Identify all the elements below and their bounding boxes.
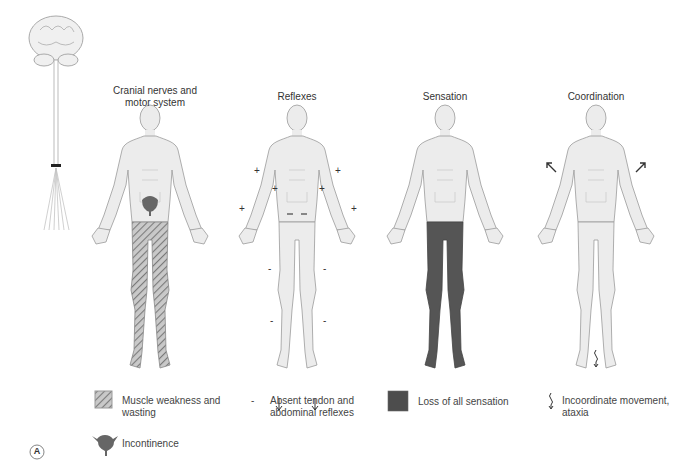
figure-coordination	[538, 105, 654, 368]
dark-square-icon	[388, 391, 408, 411]
plus-mark: +	[272, 183, 278, 194]
legend-muscle: Muscle weakness and wasting	[122, 395, 220, 419]
title-line-1: Cranial nerves and	[100, 85, 210, 97]
legend-reflex: Absent tendon and abdominal reflexes	[270, 395, 354, 419]
plus-mark: +	[351, 203, 357, 214]
plus-mark: +	[319, 183, 325, 194]
figure-motor-system	[92, 105, 208, 368]
figure-reflexes	[239, 105, 355, 410]
plus-mark: +	[254, 165, 260, 176]
panel-title-motor: Cranial nerves and motor system	[100, 85, 210, 109]
minus-mark: -	[323, 315, 326, 326]
legend-coordination: Incoordinate movement, ataxia	[562, 395, 669, 419]
title-line-2: motor system	[100, 97, 210, 109]
legend-reflex-line2: abdominal reflexes	[270, 407, 354, 419]
squiggle-arrow-icon	[549, 393, 553, 409]
legend-coordination-line1: Incoordinate movement,	[562, 395, 669, 407]
plus-mark: +	[335, 165, 341, 176]
plus-mark: +	[239, 203, 245, 214]
panel-title-reflexes: Reflexes	[250, 91, 344, 103]
legend-muscle-line2: wasting	[122, 407, 220, 419]
panel-title-sensation: Sensation	[398, 91, 492, 103]
legend-incontinence: Incontinence	[122, 438, 179, 450]
bladder-icon	[92, 435, 118, 456]
hatched-square-icon	[95, 391, 112, 408]
legend-reflex-line1: Absent tendon and	[270, 395, 354, 407]
figure-sensation	[387, 105, 503, 368]
legend-muscle-line1: Muscle weakness and	[122, 395, 220, 407]
legend-sensation: Loss of all sensation	[418, 396, 509, 408]
brain-spinal-cord-icon	[29, 16, 83, 230]
panel-title-coordination: Coordination	[549, 91, 643, 103]
figure-label: A	[30, 446, 44, 456]
minus-mark: -	[323, 263, 326, 274]
minus-sign-icon: -	[251, 395, 254, 407]
minus-mark: -	[268, 263, 271, 274]
minus-mark: -	[270, 315, 273, 326]
legend-coordination-line2: ataxia	[562, 407, 669, 419]
